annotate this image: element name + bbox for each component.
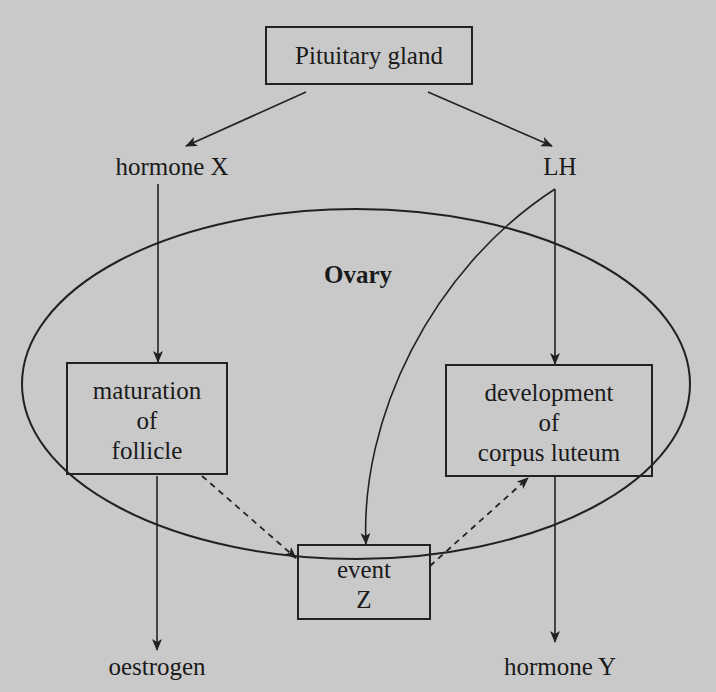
arrow-pituitary-to-lh <box>428 92 552 146</box>
development-line-1: development <box>484 379 613 406</box>
ovary-hormone-diagram: Ovary Pituitary gland hormone X LH matur… <box>0 0 716 692</box>
event-z-line-1: event <box>337 556 391 583</box>
arrow-pituitary-to-hormone-x <box>186 92 306 146</box>
pituitary-gland-label: Pituitary gland <box>295 42 443 69</box>
dashed-arrow-maturation-to-event-z <box>202 476 296 558</box>
ovary-label: Ovary <box>324 261 393 288</box>
development-line-3: corpus luteum <box>478 439 621 466</box>
development-line-2: of <box>539 409 561 436</box>
oestrogen-label: oestrogen <box>108 653 206 680</box>
hormone-x-label: hormone X <box>115 153 228 180</box>
maturation-line-2: of <box>137 407 159 434</box>
development-of-corpus-luteum-node: development of corpus luteum <box>446 365 652 476</box>
maturation-line-3: follicle <box>112 437 183 464</box>
lh-label: LH <box>543 153 576 180</box>
maturation-of-follicle-node: maturation of follicle <box>67 363 227 474</box>
pituitary-gland-node: Pituitary gland <box>266 27 472 84</box>
arrow-lh-to-event-z <box>366 189 555 544</box>
maturation-line-1: maturation <box>93 377 202 404</box>
event-z-line-2: Z <box>356 586 371 613</box>
hormone-y-label: hormone Y <box>504 653 616 680</box>
